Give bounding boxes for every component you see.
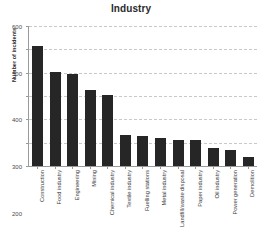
bar-slot	[99, 26, 117, 166]
bar-slot	[187, 26, 205, 166]
x-tick-mark	[90, 166, 91, 169]
bar-slot	[64, 26, 82, 166]
x-tick-slot	[152, 166, 170, 169]
bar-slot	[47, 26, 65, 166]
x-axis-labels: ConstructionFood industryEngineeringMini…	[28, 170, 256, 236]
x-axis-ticks	[29, 166, 257, 169]
x-tick-slot	[239, 166, 257, 169]
x-tick-slot	[222, 166, 240, 169]
x-label-slot: Fuelling stations	[133, 170, 151, 236]
bar-chart: Industry Number of incidents 01002003004…	[0, 0, 262, 238]
x-tick-slot	[187, 166, 205, 169]
bar[interactable]	[137, 136, 148, 166]
x-tick-slot	[99, 166, 117, 169]
x-tick-slot	[29, 166, 47, 169]
x-label-slot: Textile industry	[116, 170, 134, 236]
x-tick-slot	[117, 166, 135, 169]
bar-slot	[204, 26, 222, 166]
x-tick-label: Paper industry	[197, 170, 203, 207]
bar-slot	[117, 26, 135, 166]
bar-slot	[239, 26, 257, 166]
bar[interactable]	[173, 140, 184, 166]
x-tick-label: Oil industry	[214, 170, 220, 198]
bar[interactable]	[120, 135, 131, 166]
x-label-slot: Construction	[28, 170, 46, 236]
x-tick-mark	[178, 166, 179, 169]
plot-area: 0100200300400500600	[28, 26, 257, 167]
bar-slot	[222, 26, 240, 166]
x-label-slot: Chemical industry	[98, 170, 116, 236]
bars-layer	[29, 26, 257, 166]
y-tick-label: 200	[12, 211, 22, 217]
x-tick-mark	[125, 166, 126, 169]
x-tick-mark	[72, 166, 73, 169]
x-tick-label: Mining	[91, 170, 97, 187]
bar[interactable]	[85, 90, 96, 166]
x-tick-label: Demolition	[249, 170, 255, 197]
x-tick-mark	[107, 166, 108, 169]
x-label-slot: Power generation	[221, 170, 239, 236]
bar[interactable]	[225, 150, 236, 166]
bar[interactable]	[67, 74, 78, 166]
x-tick-slot	[134, 166, 152, 169]
x-tick-label: Food industry	[56, 170, 62, 204]
x-tick-mark	[248, 166, 249, 169]
x-tick-slot	[169, 166, 187, 169]
x-tick-mark	[230, 166, 231, 169]
x-tick-mark	[160, 166, 161, 169]
y-tick-label: 300	[12, 164, 22, 170]
x-label-slot: Paper industry	[186, 170, 204, 236]
x-tick-slot	[204, 166, 222, 169]
x-tick-mark	[55, 166, 56, 169]
x-label-slot: Engineering	[63, 170, 81, 236]
bar-slot	[134, 26, 152, 166]
x-label-slot: Demolition	[238, 170, 256, 236]
x-label-slot: Landfill/waste disposal	[168, 170, 186, 236]
bar-slot	[82, 26, 100, 166]
bar[interactable]	[32, 46, 43, 166]
bar[interactable]	[190, 140, 201, 166]
bar[interactable]	[155, 138, 166, 166]
y-tick-label: 500	[12, 71, 22, 77]
x-tick-label: Chemical industry	[109, 170, 115, 215]
bar[interactable]	[208, 148, 219, 166]
y-axis-title: Number of incidents	[11, 0, 17, 110]
bar[interactable]	[50, 72, 61, 167]
x-tick-label: Engineering	[74, 170, 80, 200]
x-tick-mark	[195, 166, 196, 169]
x-tick-label: Power generation	[232, 170, 238, 215]
x-tick-label: Metal industry	[161, 170, 167, 205]
bar[interactable]	[102, 95, 113, 166]
x-tick-slot	[82, 166, 100, 169]
bar-slot	[152, 26, 170, 166]
y-tick-label: 600	[12, 24, 22, 30]
x-label-slot: Metal industry	[151, 170, 169, 236]
x-tick-label: Fuelling stations	[144, 170, 150, 211]
x-tick-mark	[142, 166, 143, 169]
x-tick-label: Landfill/waste disposal	[179, 170, 185, 227]
bar[interactable]	[243, 157, 254, 166]
x-tick-slot	[64, 166, 82, 169]
x-tick-mark	[213, 166, 214, 169]
x-tick-slot	[47, 166, 65, 169]
chart-title: Industry	[0, 3, 262, 14]
x-label-slot: Oil industry	[203, 170, 221, 236]
bar-slot	[169, 26, 187, 166]
x-tick-mark	[37, 166, 38, 169]
bar-slot	[29, 26, 47, 166]
y-tick-label: 400	[12, 117, 22, 123]
x-tick-label: Construction	[39, 170, 45, 202]
x-tick-label: Textile industry	[126, 170, 132, 208]
x-label-slot: Food industry	[46, 170, 64, 236]
x-label-slot: Mining	[81, 170, 99, 236]
